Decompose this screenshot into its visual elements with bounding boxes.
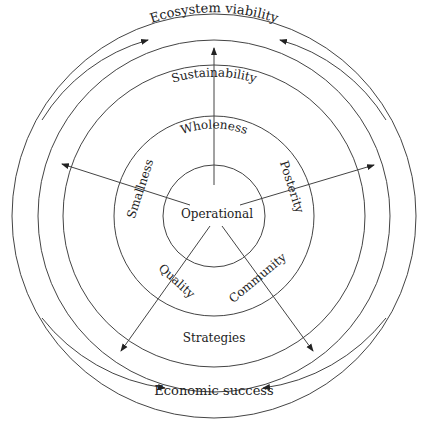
label-economic-success: Economic success — [154, 383, 273, 398]
concentric-diagram: Ecosystem viability Sustainability Whole… — [0, 0, 428, 432]
label-community: Community — [226, 250, 289, 306]
label-smallness: Smallness — [124, 157, 156, 220]
arrow-arc-top-right — [280, 40, 386, 120]
label-strategies: Strategies — [183, 331, 246, 345]
arrow-right — [240, 165, 374, 205]
label-operational: Operational — [181, 207, 253, 221]
arrow-left — [62, 164, 190, 205]
label-quality: Quality — [156, 261, 198, 301]
arrow-arc-top-left — [42, 40, 148, 120]
label-ecosystem-viability: Ecosystem viability — [148, 0, 281, 26]
